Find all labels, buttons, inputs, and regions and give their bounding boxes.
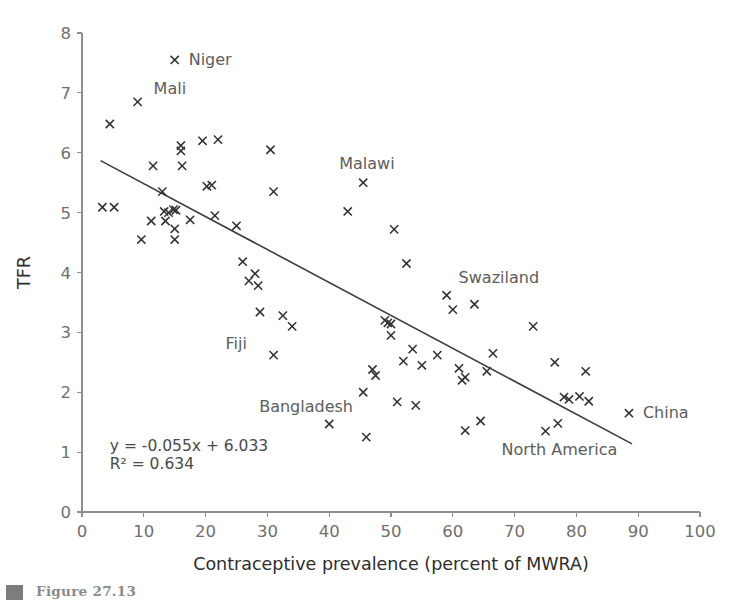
- data-point-marker: [214, 135, 222, 143]
- data-point-marker: [279, 312, 287, 320]
- data-point-marker: [198, 137, 206, 145]
- x-tick-label: 100: [684, 522, 716, 541]
- data-point-marker: [582, 367, 590, 375]
- data-point-marker: [269, 188, 277, 196]
- data-point-marker: [461, 373, 469, 381]
- data-point-marker: [529, 322, 537, 330]
- data-point-marker: [161, 217, 169, 225]
- data-point-marker: [575, 392, 583, 400]
- data-point-marker: [344, 207, 352, 215]
- data-point-marker: [239, 258, 247, 266]
- data-point-marker: [455, 364, 463, 372]
- x-tick-label: 20: [195, 522, 216, 541]
- y-tick-label: 1: [61, 443, 72, 462]
- data-point-marker: [256, 308, 264, 316]
- x-tick-label: 80: [566, 522, 587, 541]
- x-tick-label: 40: [319, 522, 340, 541]
- data-point-marker: [554, 419, 562, 427]
- data-point-marker: [362, 433, 370, 441]
- data-point-marker: [449, 306, 457, 314]
- figure-caption-strip: Figure 27.13: [0, 577, 741, 613]
- data-point-marker: [393, 398, 401, 406]
- data-point-marker: [288, 322, 296, 330]
- figure-bullet-icon: [6, 585, 23, 600]
- point-annotation-label: Fiji: [226, 334, 247, 353]
- data-point-marker: [171, 235, 179, 243]
- data-point-marker: [186, 216, 194, 224]
- figure-caption-label: Figure 27.13: [36, 583, 736, 599]
- x-tick-label: 30: [257, 522, 278, 541]
- y-axis-title: TFR: [14, 256, 34, 290]
- r-squared-text: R² = 0.634: [110, 455, 194, 473]
- y-tick-label: 6: [61, 144, 72, 163]
- data-point-marker: [98, 203, 106, 211]
- data-point-marker: [178, 162, 186, 170]
- x-tick-label: 90: [628, 522, 649, 541]
- y-tick-label: 0: [61, 503, 72, 522]
- y-tick-label: 4: [61, 264, 72, 283]
- data-point-marker: [266, 146, 274, 154]
- data-point-marker: [470, 300, 478, 308]
- data-point-marker: [402, 259, 410, 267]
- data-point-marker: [625, 409, 633, 417]
- equation-annotation-group: y = -0.055x + 6.033R² = 0.634: [110, 437, 268, 473]
- x-tick-label: 50: [381, 522, 402, 541]
- data-point-marker: [325, 420, 333, 428]
- point-labels-group: NigerMaliMalawiSwazilandFijiBangladeshNo…: [154, 50, 689, 459]
- x-axis-title: Contraceptive prevalence (percent of MWR…: [193, 554, 589, 574]
- data-points-group: [98, 56, 633, 441]
- data-point-marker: [433, 351, 441, 359]
- x-tick-label: 10: [133, 522, 154, 541]
- x-tick-label: 70: [504, 522, 525, 541]
- y-tick-label: 7: [61, 84, 72, 103]
- regression-trend-line: [101, 161, 632, 444]
- data-point-marker: [177, 147, 185, 155]
- y-tick-label: 5: [61, 204, 72, 223]
- data-point-marker: [461, 426, 469, 434]
- data-point-marker: [399, 357, 407, 365]
- data-point-marker: [390, 225, 398, 233]
- data-point-marker: [137, 235, 145, 243]
- data-point-marker: [171, 225, 179, 233]
- data-point-marker: [585, 397, 593, 405]
- data-point-marker: [387, 331, 395, 339]
- data-point-marker: [147, 217, 155, 225]
- y-tick-label: 3: [61, 323, 72, 342]
- x-tick-label: 0: [77, 522, 88, 541]
- data-point-marker: [211, 212, 219, 220]
- y-tick-label: 2: [61, 383, 72, 402]
- data-point-marker: [149, 162, 157, 170]
- data-point-marker: [254, 282, 262, 290]
- point-annotation-label: Swaziland: [459, 268, 539, 287]
- point-annotation-label: Niger: [189, 50, 232, 69]
- data-point-marker: [134, 98, 142, 106]
- data-point-marker: [409, 345, 417, 353]
- data-point-marker: [359, 388, 367, 396]
- point-annotation-label: Bangladesh: [259, 397, 353, 416]
- data-point-marker: [551, 358, 559, 366]
- data-point-marker: [359, 179, 367, 187]
- data-point-marker: [418, 361, 426, 369]
- data-point-marker: [251, 270, 259, 278]
- data-point-marker: [110, 203, 118, 211]
- data-point-marker: [232, 222, 240, 230]
- data-point-marker: [106, 120, 114, 128]
- regression-equation-text: y = -0.055x + 6.033: [110, 437, 268, 455]
- data-point-marker: [171, 56, 179, 64]
- figure-root: 0123456780102030405060708090100 NigerMal…: [0, 0, 741, 613]
- data-point-marker: [489, 349, 497, 357]
- point-annotation-label: China: [643, 403, 689, 422]
- trend-line-group: [101, 161, 632, 444]
- data-point-marker: [443, 291, 451, 299]
- scatter-chart: 0123456780102030405060708090100 NigerMal…: [0, 0, 741, 613]
- x-tick-label: 60: [442, 522, 463, 541]
- point-annotation-label: North America: [502, 440, 618, 459]
- data-point-marker: [483, 367, 491, 375]
- data-point-marker: [541, 427, 549, 435]
- data-point-marker: [477, 417, 485, 425]
- data-point-marker: [269, 351, 277, 359]
- data-point-marker: [412, 401, 420, 409]
- point-annotation-label: Mali: [154, 79, 187, 98]
- point-annotation-label: Malawi: [339, 154, 394, 173]
- y-tick-label: 8: [61, 24, 72, 43]
